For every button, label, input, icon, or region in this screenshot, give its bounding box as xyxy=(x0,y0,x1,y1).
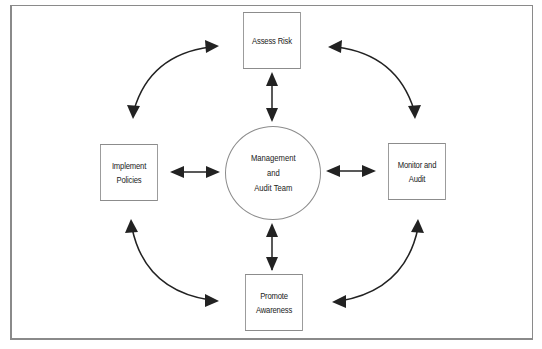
arc-assess-monitor xyxy=(337,47,414,110)
node-implement-policies: Implement Policies xyxy=(100,144,158,201)
node-label: Monitor and Audit xyxy=(398,158,437,186)
node-label: Implement Policies xyxy=(112,159,146,187)
node-label: Promote Awareness xyxy=(256,289,292,317)
arc-implement-promote xyxy=(132,228,210,300)
node-promote-awareness: Promote Awareness xyxy=(245,274,303,331)
arc-implement-assess xyxy=(134,47,210,110)
arc-monitor-promote xyxy=(340,228,418,301)
center-node-management-audit-team: Management and Audit Team xyxy=(225,126,321,220)
center-label: Management and Audit Team xyxy=(251,151,296,196)
node-assess-risk: Assess Risk xyxy=(243,12,301,69)
node-label: Assess Risk xyxy=(252,34,292,48)
node-monitor-and-audit: Monitor and Audit xyxy=(388,143,446,200)
